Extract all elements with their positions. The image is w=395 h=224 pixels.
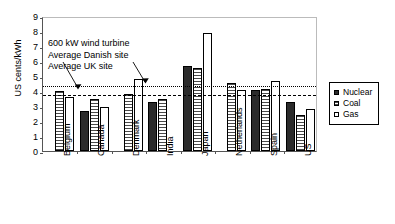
x-axis-label-canada: Canada xyxy=(96,124,106,156)
bar-us-nuclear xyxy=(286,102,295,151)
y-tickmark-0 xyxy=(40,153,43,154)
x-tickmark-4 xyxy=(181,151,182,154)
y-tick-label-5: 5 xyxy=(26,73,38,82)
bar-group-us xyxy=(284,18,318,151)
legend-item-nuclear: Nuclear xyxy=(334,87,372,98)
x-axis-label-spain: Spain xyxy=(269,133,279,156)
x-tickmark-1 xyxy=(77,151,78,154)
x-axis-label-denmark: Denmark xyxy=(131,119,141,156)
nuclear-swatch-icon xyxy=(334,90,339,95)
bar-spain-nuclear xyxy=(251,90,260,151)
gas-swatch-icon xyxy=(334,112,339,117)
reference-line-uk xyxy=(43,86,316,87)
x-tickmark-2 xyxy=(112,151,113,154)
bar-india-nuclear xyxy=(148,102,157,151)
y-tick-label-0: 0 xyxy=(26,148,38,157)
annotation-line-2: Average Danish site xyxy=(48,50,128,62)
y-tick-label-1: 1 xyxy=(26,133,38,142)
bar-chart-figure: US cents/kWh 9 8 7 6 5 4 3 2 1 0 600 xyxy=(0,0,395,224)
x-axis-label-india: India xyxy=(165,136,175,156)
bar-group-india xyxy=(146,18,180,151)
x-tickmark-3 xyxy=(146,151,147,154)
legend-label-coal: Coal xyxy=(343,98,360,109)
y-tick-label-8: 8 xyxy=(26,28,38,37)
x-axis-label-netherlands: Netherlands xyxy=(234,107,244,156)
legend-item-coal: Coal xyxy=(334,98,372,109)
y-axis-title: US cents/kWh xyxy=(13,8,23,128)
y-tick-label-3: 3 xyxy=(26,103,38,112)
annotation-line-3: Average UK site xyxy=(48,61,113,73)
legend-label-nuclear: Nuclear xyxy=(343,87,372,98)
x-tickmark-5 xyxy=(215,151,216,154)
y-tick-label-2: 2 xyxy=(26,118,38,127)
annotation-line-1: 600 kW wind turbine xyxy=(48,38,130,50)
x-axis-label-japan: Japan xyxy=(200,131,210,156)
reference-line-danish xyxy=(43,95,316,96)
bar-canada-nuclear xyxy=(80,111,89,152)
y-tick-label-4: 4 xyxy=(26,88,38,97)
legend-label-gas: Gas xyxy=(343,109,359,120)
bar-group-spain xyxy=(249,18,283,151)
y-tick-label-9: 9 xyxy=(26,13,38,22)
coal-swatch-icon xyxy=(334,101,339,106)
x-axis-label-us: US xyxy=(303,143,313,156)
bar-japan-nuclear xyxy=(183,66,192,152)
legend-item-gas: Gas xyxy=(334,109,372,120)
x-tickmark-6 xyxy=(250,151,251,154)
x-axis-label-belgium: Belgium xyxy=(62,123,72,156)
bar-group-netherlands xyxy=(215,18,249,151)
y-tick-label-7: 7 xyxy=(26,43,38,52)
x-tickmark-7 xyxy=(284,151,285,154)
y-tick-label-6: 6 xyxy=(26,58,38,67)
legend: Nuclear Coal Gas xyxy=(329,82,379,125)
